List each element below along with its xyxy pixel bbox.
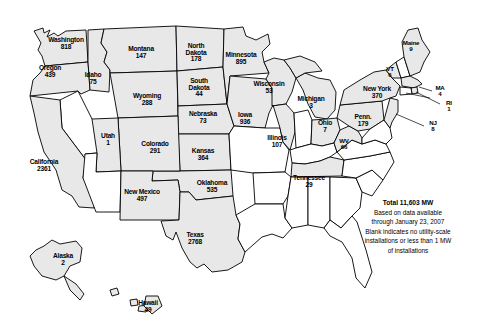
state-indiana[interactable] — [294, 110, 312, 148]
us-wind-capacity-map: Washington 818 Oregon 439 Idaho 75 Monta… — [0, 0, 479, 335]
note-line-1: Based on data available — [341, 208, 475, 217]
leader-ct — [406, 93, 430, 98]
leader-nj — [396, 114, 424, 126]
note-line-3: Blank indicates no utility-scale — [341, 227, 475, 236]
state-hawaii-oahu[interactable] — [130, 299, 138, 306]
state-missouri[interactable] — [229, 126, 289, 173]
state-new-jersey[interactable] — [384, 98, 398, 128]
state-north-dakota[interactable] — [176, 26, 224, 71]
note-line-4: installations or less than 1 MW — [341, 236, 475, 245]
state-alaska-panhandle[interactable] — [64, 276, 84, 300]
state-arkansas[interactable] — [253, 172, 291, 204]
state-kansas[interactable] — [178, 134, 231, 171]
state-alabama[interactable] — [308, 177, 330, 228]
state-oregon[interactable] — [30, 62, 90, 96]
state-louisiana[interactable] — [236, 204, 292, 252]
note-line-2: through January 23, 2007 — [341, 217, 475, 226]
state-wyoming[interactable] — [110, 71, 178, 118]
state-hawaii-kauai[interactable] — [110, 288, 119, 296]
leader-ri — [416, 92, 440, 104]
leader-ma — [419, 87, 432, 91]
state-massachusetts[interactable] — [401, 76, 422, 88]
state-colorado[interactable] — [118, 116, 180, 171]
state-shapes — [30, 26, 430, 314]
state-washington[interactable] — [34, 28, 88, 66]
us-map-svg — [0, 0, 479, 335]
note-line-5: of installations — [341, 246, 475, 255]
map-note: Total 11,603 MW Based on data available … — [341, 198, 475, 255]
state-montana[interactable] — [101, 26, 177, 73]
state-south-dakota[interactable] — [177, 67, 227, 106]
state-iowa[interactable] — [227, 76, 273, 128]
state-alaska[interactable] — [30, 240, 82, 280]
note-total: Total 11,603 MW — [341, 198, 475, 208]
state-nebraska[interactable] — [178, 104, 234, 134]
